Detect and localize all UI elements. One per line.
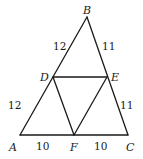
label-point-c: C [126,141,135,154]
triangle-diagram: B D E A F C 12 11 12 11 10 10 [0,0,143,159]
length-bd: 12 [53,40,66,52]
segment-ab [20,17,87,135]
length-da: 12 [8,99,21,111]
length-be: 11 [102,40,115,52]
length-af: 10 [36,140,49,152]
label-point-d: D [39,71,49,84]
label-point-f: F [69,141,78,154]
length-ec: 11 [120,99,133,111]
segment-df [53,77,74,135]
label-point-e: E [110,71,119,84]
segment-bc [87,17,128,135]
length-fc: 10 [94,140,107,152]
label-point-a: A [8,141,17,154]
segment-ef [74,77,107,135]
label-point-b: B [82,4,91,17]
